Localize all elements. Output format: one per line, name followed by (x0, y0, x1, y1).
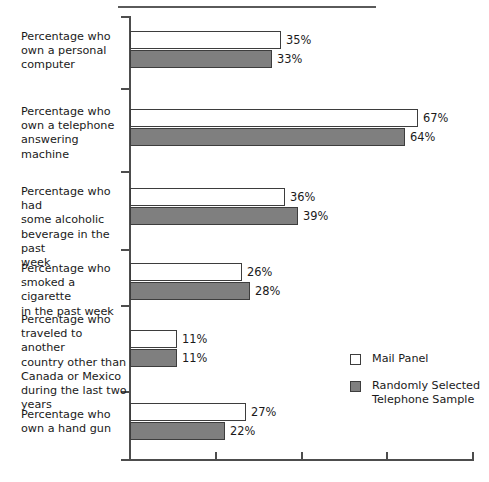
bar-value-label: 35% (286, 31, 311, 49)
bar-mail (130, 403, 246, 421)
category-label: Percentage whoown a telephoneanswering m… (21, 105, 127, 162)
y-axis-line (129, 16, 131, 460)
bar-value-label: 11% (182, 349, 207, 367)
category-label-line: own a personal (21, 44, 127, 58)
category-label: Percentage whoown a personalcomputer (21, 30, 127, 73)
bar-value-label: 28% (255, 282, 280, 300)
category-label-line: beverage in the past (21, 228, 127, 256)
category-label-line: some alcoholic (21, 213, 127, 227)
bar-value-label: 64% (410, 128, 435, 146)
top-divider-rule (118, 6, 376, 8)
bar-value-label: 22% (230, 422, 255, 440)
x-axis-tick (301, 452, 303, 461)
y-axis-tick (121, 88, 130, 90)
legend-label-line: Mail Panel (372, 352, 428, 366)
category-label-line: Percentage who (21, 30, 127, 44)
bar-value-label: 67% (423, 109, 448, 127)
x-axis-tick (215, 452, 217, 461)
category-label: Percentage whotraveled to anothercountry… (21, 313, 127, 412)
category-label-line: Canada or Mexico (21, 370, 127, 384)
bar-mail (130, 330, 177, 348)
y-axis-tick (121, 16, 130, 18)
category-label-line: smoked a cigarette (21, 276, 127, 304)
chart-figure: Percentage whoown a personalcomputerPerc… (0, 0, 489, 482)
legend-label-line: Telephone Sample (372, 393, 480, 407)
legend-swatch-mail (350, 354, 361, 365)
category-label: Percentage who hadsome alcoholicbeverage… (21, 185, 127, 270)
legend-item: Randomly SelectedTelephone Sample (350, 379, 480, 407)
legend-label: Mail Panel (372, 352, 428, 366)
category-label-line: traveled to another (21, 327, 127, 355)
category-label-line: answering machine (21, 133, 127, 161)
bar-value-label: 11% (182, 330, 207, 348)
bar-phone (130, 50, 272, 68)
category-label-line: Percentage who (21, 408, 127, 422)
category-label-line: Percentage who (21, 262, 127, 276)
bar-mail (130, 188, 285, 206)
bar-phone (130, 207, 298, 225)
category-label-line: Percentage who (21, 313, 127, 327)
bar-phone (130, 349, 177, 367)
category-label-line: own a hand gun (21, 422, 127, 436)
category-label: Percentage whosmoked a cigarettein the p… (21, 262, 127, 319)
category-label: Percentage whoown a hand gun (21, 408, 127, 436)
bar-value-label: 39% (303, 207, 328, 225)
bar-value-label: 26% (247, 263, 272, 281)
category-label-line: computer (21, 58, 127, 72)
category-label-line: country other than (21, 356, 127, 370)
legend-label: Randomly SelectedTelephone Sample (372, 379, 480, 407)
bar-phone (130, 128, 405, 146)
bar-phone (130, 282, 250, 300)
category-label-line: Percentage who (21, 105, 127, 119)
x-axis-tick (472, 452, 474, 461)
y-axis-tick (121, 171, 130, 173)
legend-swatch-phone (350, 381, 361, 392)
y-axis-tick (121, 459, 130, 461)
bar-value-label: 33% (277, 50, 302, 68)
category-label-line: own a telephone (21, 119, 127, 133)
legend-item: Mail Panel (350, 352, 480, 366)
chart-legend: Mail PanelRandomly SelectedTelephone Sam… (350, 352, 480, 421)
category-label-line: Percentage who had (21, 185, 127, 213)
legend-label-line: Randomly Selected (372, 379, 480, 393)
bar-phone (130, 422, 225, 440)
bar-value-label: 36% (290, 188, 315, 206)
bar-mail (130, 263, 242, 281)
x-axis-tick (386, 452, 388, 461)
category-label-line: during the last two (21, 384, 127, 398)
bar-value-label: 27% (251, 403, 276, 421)
bar-mail (130, 109, 418, 127)
bar-mail (130, 31, 281, 49)
